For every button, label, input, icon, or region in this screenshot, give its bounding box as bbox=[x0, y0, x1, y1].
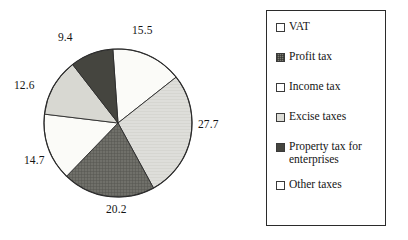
slice-value-label-vat: 15.5 bbox=[132, 24, 153, 36]
pie-svg bbox=[0, 0, 262, 240]
chart-legend: VAT Profit tax Income tax Excise taxes P… bbox=[266, 10, 386, 226]
legend-label-income-tax: Income tax bbox=[289, 80, 340, 93]
legend-list: VAT Profit tax Income tax Excise taxes P… bbox=[276, 20, 381, 191]
legend-label-vat: VAT bbox=[289, 20, 310, 33]
slice-value-label-profit-tax: 27.7 bbox=[198, 118, 219, 130]
legend-item-excise-taxes: Excise taxes bbox=[276, 110, 381, 123]
legend-swatch-icon-other-taxes bbox=[276, 181, 285, 190]
legend-swatch-icon-profit-tax bbox=[276, 53, 285, 62]
legend-swatch-icon-excise-taxes bbox=[276, 113, 285, 122]
legend-item-property-tax: Property tax for enterprises bbox=[276, 140, 381, 166]
slice-value-label-other-taxes: 9.4 bbox=[58, 31, 73, 43]
legend-label-other-taxes: Other taxes bbox=[289, 178, 342, 191]
legend-swatch-icon-vat bbox=[276, 23, 285, 32]
legend-swatch-icon-property-tax bbox=[276, 143, 285, 152]
legend-item-profit-tax: Profit tax bbox=[276, 50, 381, 63]
legend-label-property-tax: Property tax for enterprises bbox=[289, 140, 362, 166]
pie-chart-figure: 15.5 27.7 20.2 14.7 12.6 9.4 VAT Profit … bbox=[0, 0, 408, 240]
legend-swatch-icon-income-tax bbox=[276, 83, 285, 92]
pie-slices bbox=[44, 49, 192, 197]
legend-item-other-taxes: Other taxes bbox=[276, 178, 381, 191]
slice-value-label-excise-taxes: 14.7 bbox=[24, 154, 45, 166]
pie-plot-area: 15.5 27.7 20.2 14.7 12.6 9.4 bbox=[0, 0, 262, 240]
legend-label-excise-taxes: Excise taxes bbox=[289, 110, 346, 123]
legend-item-income-tax: Income tax bbox=[276, 80, 381, 93]
slice-value-label-property-tax: 12.6 bbox=[14, 79, 35, 91]
legend-label-profit-tax: Profit tax bbox=[289, 50, 332, 63]
slice-value-label-income-tax: 20.2 bbox=[106, 203, 127, 215]
legend-item-vat: VAT bbox=[276, 20, 381, 33]
